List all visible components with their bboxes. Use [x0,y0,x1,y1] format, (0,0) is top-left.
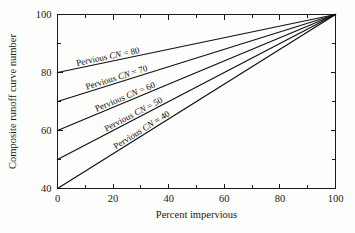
y-tick-label-60: 60 [41,125,52,136]
x-axis-title: Percent impervious [156,209,237,220]
x-tick-label-20: 20 [108,193,119,204]
series-label-value: = 80 [120,45,141,59]
y-axis-title: Composite runoff curve number [7,34,18,169]
chart-figure: 020406080100406080100 Pervious CN = 80Pe… [0,0,355,233]
chart-svg: 020406080100406080100 Pervious CN = 80Pe… [0,0,355,233]
x-tick-label-0: 0 [55,193,60,204]
y-tick-label-100: 100 [36,9,52,20]
series-line-cn-80 [58,15,336,73]
y-tick-label-40: 40 [41,183,52,194]
series-label-prefix: Pervious [93,91,128,113]
series-label-prefix: Pervious [84,72,119,92]
x-tick-label-40: 40 [163,193,174,204]
chart-series-labels: Pervious CN = 80Pervious CN = 70Pervious… [75,45,172,151]
x-tick-label-80: 80 [275,193,286,204]
x-tick-label-100: 100 [328,193,344,204]
chart-plot-area: 020406080100406080100 Pervious CN = 80Pe… [0,0,355,233]
series-label-cn-80: Pervious CN = 80 [75,45,141,68]
y-tick-label-80: 80 [41,67,52,78]
x-tick-label-60: 60 [219,193,230,204]
series-line-cn-60 [58,15,336,131]
